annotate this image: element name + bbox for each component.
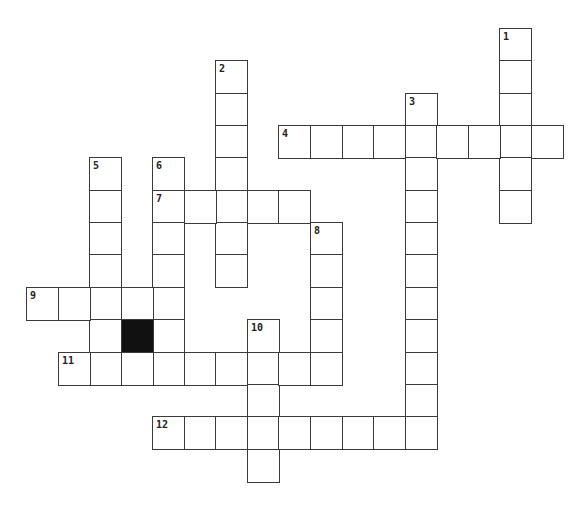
crossword-cell[interactable] (405, 125, 438, 159)
crossword-cell[interactable] (184, 416, 217, 450)
crossword-cell[interactable]: 5 (89, 157, 122, 191)
crossword-cell[interactable] (247, 449, 280, 483)
clue-number: 11 (62, 356, 74, 366)
crossword-cell[interactable]: 6 (152, 157, 185, 191)
crossword-cell[interactable] (531, 125, 564, 159)
crossword-cell[interactable] (405, 384, 438, 418)
crossword-cell[interactable] (405, 222, 438, 256)
crossword-cell[interactable] (89, 222, 122, 256)
crossword-cell[interactable]: 4 (278, 125, 311, 159)
crossword-cell[interactable] (310, 287, 343, 321)
crossword-cell[interactable] (152, 287, 185, 321)
crossword-cell[interactable] (215, 254, 248, 288)
crossword-cell[interactable] (247, 384, 280, 418)
crossword-cell[interactable] (405, 190, 438, 224)
crossword-cell[interactable] (342, 416, 375, 450)
crossword-cell[interactable]: 10 (247, 319, 280, 353)
clue-number: 2 (219, 64, 225, 74)
crossword-cell[interactable] (89, 319, 122, 353)
crossword-cell[interactable] (215, 416, 248, 450)
crossword-cell[interactable]: 8 (310, 222, 343, 256)
crossword-cell[interactable] (405, 157, 438, 191)
clue-number: 6 (156, 161, 162, 171)
crossword-cell[interactable] (499, 93, 532, 127)
crossword-cell[interactable] (152, 222, 185, 256)
crossword-cell[interactable] (310, 319, 343, 353)
crossword-cell[interactable] (405, 254, 438, 288)
clue-number: 12 (156, 420, 168, 430)
crossword-cell[interactable] (373, 125, 406, 159)
crossword-cell[interactable] (247, 416, 280, 450)
crossword-cell[interactable] (278, 190, 311, 224)
clue-number: 1 (503, 32, 509, 42)
crossword-cell[interactable] (215, 352, 248, 386)
crossword-cell[interactable] (499, 157, 532, 191)
crossword-cell[interactable] (405, 416, 438, 450)
crossword-cell[interactable] (152, 254, 185, 288)
crossword-cell[interactable] (405, 287, 438, 321)
crossword-cell[interactable]: 7 (152, 190, 185, 224)
crossword-cell[interactable] (215, 157, 248, 191)
crossword-cell[interactable] (499, 60, 532, 94)
crossword-cell[interactable] (184, 352, 217, 386)
crossword-cell[interactable] (121, 352, 154, 386)
crossword-cell[interactable] (89, 190, 122, 224)
clue-number: 3 (409, 97, 415, 107)
crossword-cell[interactable] (342, 125, 375, 159)
crossword-cell[interactable] (215, 93, 248, 127)
crossword-cell[interactable] (278, 352, 311, 386)
black-cell (121, 319, 154, 353)
crossword-cell[interactable] (278, 416, 311, 450)
crossword-cell[interactable] (215, 125, 248, 159)
crossword-cell[interactable] (247, 352, 280, 386)
clue-number: 5 (93, 161, 99, 171)
crossword-cell[interactable]: 12 (152, 416, 185, 450)
crossword-cell[interactable] (405, 319, 438, 353)
crossword-cell[interactable] (310, 352, 343, 386)
crossword-cell[interactable] (89, 352, 122, 386)
crossword-cell[interactable] (152, 352, 185, 386)
crossword-cell[interactable] (468, 125, 501, 159)
clue-number: 7 (156, 194, 162, 204)
crossword-cell[interactable] (58, 287, 91, 321)
crossword-cell[interactable]: 9 (26, 287, 59, 321)
crossword-cell[interactable] (184, 190, 217, 224)
crossword-cell[interactable]: 2 (215, 60, 248, 94)
crossword-cell[interactable] (121, 287, 154, 321)
crossword-cell[interactable] (89, 254, 122, 288)
crossword-cell[interactable] (310, 416, 343, 450)
crossword-cell[interactable] (310, 125, 343, 159)
crossword-cell[interactable] (215, 222, 248, 256)
crossword-cell[interactable] (499, 190, 532, 224)
crossword-cell[interactable] (215, 190, 248, 224)
crossword-cell[interactable] (405, 352, 438, 386)
crossword-cell[interactable] (499, 125, 532, 159)
crossword-cell[interactable] (152, 319, 185, 353)
clue-number: 8 (314, 226, 320, 236)
clue-number: 10 (251, 323, 263, 333)
clue-number: 4 (282, 129, 288, 139)
crossword-cell[interactable] (373, 416, 406, 450)
crossword-grid: 123456789101112 (0, 0, 584, 507)
crossword-cell[interactable]: 11 (58, 352, 91, 386)
crossword-cell[interactable] (247, 190, 280, 224)
crossword-cell[interactable] (310, 254, 343, 288)
crossword-cell[interactable]: 3 (405, 93, 438, 127)
crossword-cell[interactable]: 1 (499, 28, 532, 62)
crossword-cell[interactable] (89, 287, 122, 321)
clue-number: 9 (30, 291, 36, 301)
crossword-cell[interactable] (436, 125, 469, 159)
